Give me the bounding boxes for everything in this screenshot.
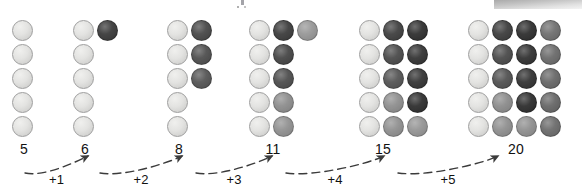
dot bbox=[468, 44, 489, 65]
scan-tick-artifact bbox=[241, 0, 244, 5]
increment-label: +5 bbox=[426, 172, 470, 187]
scan-speckle-artifact bbox=[236, 5, 248, 9]
dot bbox=[540, 116, 561, 137]
dot-column bbox=[12, 20, 33, 140]
increment-label: +4 bbox=[313, 172, 357, 187]
dot bbox=[249, 92, 270, 113]
dot bbox=[73, 68, 94, 89]
dot bbox=[540, 20, 561, 41]
group-total-label: 6 bbox=[65, 141, 105, 157]
dot bbox=[273, 44, 294, 65]
dot bbox=[407, 92, 428, 113]
dot-column bbox=[273, 20, 294, 140]
dot bbox=[12, 68, 33, 89]
dot bbox=[359, 116, 380, 137]
dot bbox=[492, 68, 513, 89]
dot bbox=[97, 20, 118, 41]
group-total-label: 15 bbox=[363, 141, 403, 157]
dot bbox=[492, 116, 513, 137]
dot bbox=[249, 20, 270, 41]
dot-column bbox=[359, 20, 380, 140]
dot bbox=[468, 116, 489, 137]
dot bbox=[468, 20, 489, 41]
dot-column bbox=[516, 20, 537, 140]
dot bbox=[516, 44, 537, 65]
dot bbox=[273, 92, 294, 113]
dot bbox=[73, 20, 94, 41]
increment-label: +2 bbox=[119, 172, 163, 187]
dot bbox=[167, 20, 188, 41]
dot bbox=[383, 68, 404, 89]
dot-column bbox=[540, 20, 561, 140]
dot bbox=[468, 68, 489, 89]
dot-column bbox=[297, 20, 318, 140]
dot bbox=[540, 68, 561, 89]
dot bbox=[540, 44, 561, 65]
dot bbox=[540, 92, 561, 113]
dot bbox=[516, 20, 537, 41]
dot bbox=[407, 68, 428, 89]
dot bbox=[273, 116, 294, 137]
dot bbox=[516, 68, 537, 89]
dot bbox=[12, 116, 33, 137]
dot bbox=[383, 116, 404, 137]
dot bbox=[468, 92, 489, 113]
dot bbox=[167, 116, 188, 137]
dot bbox=[359, 68, 380, 89]
dot bbox=[167, 92, 188, 113]
dot bbox=[12, 92, 33, 113]
dot bbox=[492, 44, 513, 65]
dot bbox=[167, 68, 188, 89]
dot bbox=[407, 116, 428, 137]
dot bbox=[191, 20, 212, 41]
dot bbox=[249, 44, 270, 65]
dot bbox=[273, 68, 294, 89]
dot-column bbox=[468, 20, 489, 140]
dot bbox=[249, 68, 270, 89]
dot bbox=[273, 20, 294, 41]
dot bbox=[249, 116, 270, 137]
dot bbox=[516, 116, 537, 137]
dot-column bbox=[383, 20, 404, 140]
group-total-label: 11 bbox=[253, 141, 293, 157]
dot bbox=[359, 44, 380, 65]
dot-column bbox=[191, 20, 212, 140]
dot bbox=[12, 44, 33, 65]
dot bbox=[407, 20, 428, 41]
dot bbox=[73, 116, 94, 137]
dot bbox=[73, 92, 94, 113]
dot bbox=[191, 68, 212, 89]
scan-smudge-artifact bbox=[494, 0, 582, 9]
group-total-label: 5 bbox=[4, 141, 44, 157]
dot bbox=[359, 92, 380, 113]
group-total-label: 20 bbox=[496, 141, 536, 157]
dot bbox=[492, 92, 513, 113]
dot-column bbox=[249, 20, 270, 140]
dot-column bbox=[73, 20, 94, 140]
dot bbox=[383, 44, 404, 65]
dot bbox=[359, 20, 380, 41]
dot bbox=[492, 20, 513, 41]
dot bbox=[297, 20, 318, 41]
diagram-canvas: 568111520 +1+2+3+4+5 bbox=[0, 0, 588, 191]
dot-column bbox=[167, 20, 188, 140]
dot bbox=[12, 20, 33, 41]
dot bbox=[383, 92, 404, 113]
increment-label: +3 bbox=[212, 172, 256, 187]
dot bbox=[191, 44, 212, 65]
dot-column bbox=[492, 20, 513, 140]
dot-column bbox=[97, 20, 118, 140]
dot bbox=[407, 44, 428, 65]
dot-column bbox=[407, 20, 428, 140]
increment-label: +1 bbox=[35, 172, 79, 187]
dot bbox=[167, 44, 188, 65]
dot bbox=[516, 92, 537, 113]
group-total-label: 8 bbox=[159, 141, 199, 157]
dot bbox=[383, 20, 404, 41]
dot bbox=[73, 44, 94, 65]
